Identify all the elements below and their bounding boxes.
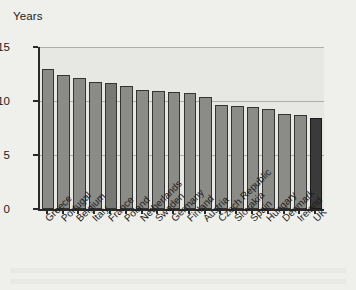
y-tick-mark-5 — [33, 154, 38, 156]
scan-bleed-line-2 — [10, 279, 346, 284]
bar-poland — [120, 86, 133, 209]
y-axis-title: Years — [13, 10, 43, 22]
bar-france — [105, 83, 118, 209]
y-tick-label-5: 5 — [4, 149, 10, 161]
y-tick-mark-15 — [33, 46, 38, 48]
y-tick-label-0: 0 — [4, 203, 10, 215]
scan-bleed-line-1 — [10, 268, 346, 273]
bar-portugal — [57, 75, 70, 209]
bar-chart: Years 051015 GreecePortugalBelgiumItalyF… — [0, 0, 356, 290]
bar-czech-republic — [215, 105, 228, 209]
y-tick-mark-10 — [33, 100, 38, 102]
bar-greece — [42, 69, 55, 209]
y-tick-label-10: 10 — [0, 95, 10, 107]
bar-netherlands — [136, 90, 149, 209]
y-tick-mark-0 — [33, 208, 38, 210]
y-tick-label-15: 15 — [0, 41, 10, 53]
